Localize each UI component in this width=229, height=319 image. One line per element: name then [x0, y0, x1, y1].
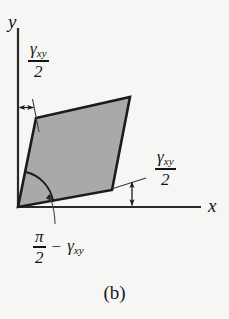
right-shear-fraction: γxy 2	[155, 148, 176, 188]
top-shear-half-label: γxy 2	[28, 40, 49, 80]
minus-operator: −	[51, 238, 63, 255]
right-shear-numerator: γxy	[155, 148, 176, 168]
gamma-term: γxy	[67, 237, 84, 256]
top-shear-fraction: γxy 2	[28, 40, 49, 80]
pi-over-two-fraction: π 2	[33, 228, 46, 266]
top-shear-numerator: γxy	[28, 40, 49, 60]
shear-strain-figure: y x γxy 2 γxy 2 π 2 − γxy (b)	[0, 0, 229, 319]
pi-numerator: π	[33, 228, 46, 246]
two-denominator: 2	[33, 248, 46, 266]
angle-expression-label: π 2 − γxy	[33, 228, 84, 266]
right-reference-line	[113, 178, 146, 189]
y-axis-label: y	[8, 12, 16, 31]
gamma-symbol: γ	[67, 236, 74, 255]
top-shear-denominator: 2	[28, 62, 49, 80]
right-shear-half-label: γxy 2	[155, 148, 176, 188]
gamma-subscript: xy	[37, 47, 47, 59]
gamma-symbol: γ	[30, 39, 37, 58]
angle-expression-row: π 2 − γxy	[33, 228, 84, 266]
x-axis-label: x	[208, 196, 216, 215]
gamma-subscript: xy	[74, 244, 84, 256]
figure-caption: (b)	[0, 282, 229, 304]
right-shear-denominator: 2	[155, 170, 176, 188]
gamma-symbol: γ	[157, 147, 164, 166]
gamma-subscript: xy	[164, 155, 174, 167]
